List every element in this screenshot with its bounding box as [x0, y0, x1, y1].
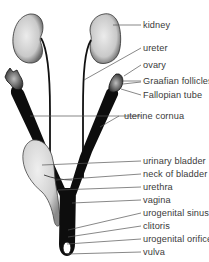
right-kidney	[90, 14, 121, 64]
left-ovary	[5, 68, 23, 90]
label-uterine-cornua: uterine cornua	[124, 111, 184, 121]
urogenital-diagram: kidney ureter ovary Graafian follicles F…	[0, 0, 209, 262]
label-ureter: ureter	[143, 43, 168, 53]
label-urogenital-orifice: urogenital orifice	[143, 234, 209, 244]
right-ovary	[109, 74, 123, 92]
label-urethra: urethra	[143, 182, 173, 192]
label-urogenital-sinus: urogenital sinus	[143, 208, 209, 218]
label-vagina: vagina	[143, 195, 171, 205]
left-kidney	[13, 14, 43, 63]
label-neck-of-bladder: neck of bladder	[143, 169, 207, 179]
label-urinary-bladder: urinary bladder	[143, 156, 206, 166]
label-ovary: ovary	[143, 60, 166, 70]
anatomy-illustration	[0, 0, 209, 262]
urinary-bladder	[23, 140, 60, 226]
label-fallopian-tube: Fallopian tube	[143, 90, 202, 100]
label-vulva: vulva	[143, 247, 165, 257]
label-clitoris: clitoris	[143, 221, 170, 231]
label-kidney: kidney	[143, 20, 170, 30]
label-graafian-follicles: Graafian follicles	[143, 76, 209, 86]
